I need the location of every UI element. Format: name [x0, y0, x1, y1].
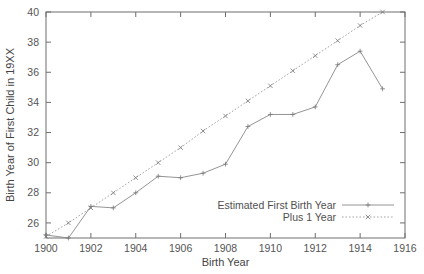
y-axis-title: Birth Year of First Child in 19XX	[4, 47, 16, 202]
chart-container: 1900190219041906190819101912191419162628…	[0, 0, 424, 274]
y-tick-label: 28	[27, 186, 39, 198]
y-tick-label: 38	[27, 36, 39, 48]
x-tick-label: 1900	[34, 242, 58, 254]
y-tick-label: 26	[27, 217, 39, 229]
y-tick-label: 32	[27, 126, 39, 138]
x-tick-label: 1916	[393, 242, 417, 254]
x-tick-label: 1912	[304, 242, 328, 254]
x-tick-label: 1910	[259, 242, 283, 254]
legend-label-1: Estimated First Birth Year	[218, 199, 337, 211]
x-tick-label: 1904	[124, 242, 148, 254]
legend-marker-1	[366, 203, 371, 208]
legend-label-2: Plus 1 Year	[283, 211, 337, 223]
x-tick-label: 1908	[214, 242, 238, 254]
line-chart: 1900190219041906190819101912191419162628…	[0, 0, 424, 274]
legend-marker-2	[366, 215, 370, 219]
x-tick-label: 1914	[348, 242, 372, 254]
y-tick-label: 30	[27, 156, 39, 168]
x-tick-label: 1902	[79, 242, 103, 254]
x-axis-title: Birth Year	[202, 256, 250, 268]
x-tick-label: 1906	[169, 242, 193, 254]
y-tick-label: 34	[27, 96, 39, 108]
y-tick-label: 40	[27, 6, 39, 18]
y-tick-label: 36	[27, 66, 39, 78]
